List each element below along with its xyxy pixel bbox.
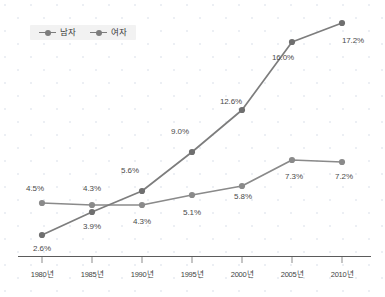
series-line-male (42, 23, 342, 235)
value-label-male-1990: 5.6% (121, 166, 139, 175)
legend-marker-female-icon (90, 28, 107, 37)
plot-area (0, 0, 385, 297)
value-label-male-2010: 17.2% (342, 36, 364, 45)
value-label-male-2000: 12.6% (220, 97, 242, 106)
value-label-female-1985: 4.3% (83, 184, 101, 193)
x-tick-label-1990: 1990년 (131, 268, 154, 279)
x-tick-label-1985: 1985년 (81, 268, 104, 279)
chart-legend: 남자 여자 (30, 25, 136, 40)
line-chart: 남자 여자 2.6% 3.9% 5.6% 9.0% 12.6% 16.0% 17… (0, 0, 385, 297)
value-label-female-1995: 5.1% (183, 208, 201, 217)
legend-label-male: 남자 (60, 28, 76, 37)
x-tick-label-1980: 1980년 (31, 268, 54, 279)
x-tick-label-2000: 2000년 (231, 268, 254, 279)
value-label-male-1985: 3.9% (83, 222, 101, 231)
value-label-female-2010: 7.2% (335, 172, 353, 181)
value-label-male-1980: 2.6% (33, 244, 51, 253)
x-axis-ticks (42, 257, 342, 263)
legend-item-male[interactable]: 남자 (39, 28, 76, 37)
legend-marker-male-icon (39, 28, 56, 37)
value-label-male-1995: 9.0% (171, 127, 189, 136)
series-line-female (42, 160, 342, 205)
x-tick-label-2010: 2010년 (331, 268, 354, 279)
x-tick-label-1995: 1995년 (181, 268, 204, 279)
x-tick-label-2005: 2005년 (281, 268, 304, 279)
value-label-female-1990: 4.3% (133, 217, 151, 226)
legend-item-female[interactable]: 여자 (90, 28, 127, 37)
legend-label-female: 여자 (111, 28, 127, 37)
value-label-female-2000: 5.8% (234, 192, 252, 201)
value-label-female-2005: 7.3% (285, 172, 303, 181)
value-label-male-2005: 16.0% (272, 53, 294, 62)
series-markers-female (39, 157, 345, 208)
value-label-female-1980: 4.5% (26, 184, 44, 193)
